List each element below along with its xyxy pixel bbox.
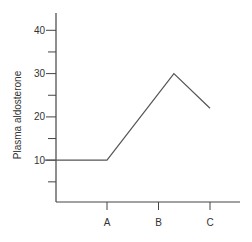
ticks: 10203040ABC	[34, 25, 214, 228]
y-axis-label: Plasma aldosterone	[12, 70, 23, 159]
series-line	[45, 74, 210, 161]
x-tick-label: C	[206, 217, 213, 228]
y-tick-label: 40	[34, 25, 46, 36]
y-tick-label: 20	[34, 111, 46, 122]
x-tick-label: B	[155, 217, 162, 228]
y-tick-label: 30	[34, 68, 46, 79]
y-tick-label: 10	[34, 155, 46, 166]
chart: 10203040ABC Plasma aldosterone	[0, 0, 252, 242]
series	[45, 74, 210, 161]
x-tick-label: A	[104, 217, 111, 228]
